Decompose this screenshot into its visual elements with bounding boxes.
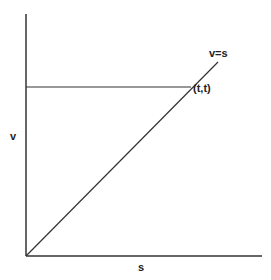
diagram-canvas: v=s (t,t) v s xyxy=(0,0,271,280)
x-axis-label: s xyxy=(138,261,144,273)
y-axis-label: v xyxy=(10,130,17,142)
line-label: v=s xyxy=(209,47,228,59)
point-label: (t,t) xyxy=(193,82,211,94)
diagonal-line-v-equals-s xyxy=(26,62,218,256)
